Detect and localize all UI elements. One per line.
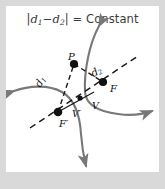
label-vertex-V: V (92, 101, 99, 111)
label-vertex-V-prime: V′ (72, 109, 81, 119)
point-vertex-dot (77, 95, 82, 100)
point-F-prime-dot (54, 108, 63, 117)
hyperbola-branch-left (14, 87, 86, 166)
label-focus-F-prime: F′ (59, 119, 68, 129)
diagram-canvas (6, 6, 159, 172)
point-F-dot (99, 78, 107, 86)
figure-panel: |d1−d2| = Constant P d1 d2 F F′ V V′ (6, 6, 159, 172)
label-focus-F: F (110, 84, 117, 94)
label-point-P: P (68, 52, 75, 62)
